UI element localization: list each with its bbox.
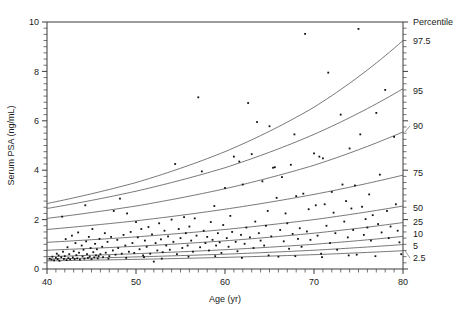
data-point bbox=[395, 203, 397, 205]
data-point bbox=[321, 256, 323, 258]
data-point bbox=[268, 255, 270, 257]
data-point bbox=[340, 114, 342, 116]
data-point bbox=[158, 222, 160, 224]
data-point bbox=[82, 256, 84, 258]
data-point bbox=[100, 253, 102, 255]
data-point bbox=[253, 247, 255, 249]
data-point bbox=[117, 247, 119, 249]
data-point bbox=[197, 96, 199, 98]
data-point bbox=[67, 246, 69, 248]
data-point bbox=[247, 102, 249, 104]
data-point bbox=[358, 28, 360, 30]
data-point bbox=[130, 231, 132, 233]
data-point bbox=[165, 245, 167, 247]
data-point bbox=[121, 253, 123, 255]
data-point bbox=[149, 253, 151, 255]
data-point bbox=[174, 163, 176, 165]
x-tick-label: 60 bbox=[220, 277, 230, 287]
data-point bbox=[98, 255, 100, 257]
data-point bbox=[205, 242, 207, 244]
percentile-label-97.5: 97.5 bbox=[413, 36, 431, 46]
data-point bbox=[75, 242, 77, 244]
data-point bbox=[190, 240, 192, 242]
data-point bbox=[62, 251, 64, 253]
data-point bbox=[254, 221, 256, 223]
data-point bbox=[123, 234, 125, 236]
data-point bbox=[91, 228, 93, 230]
data-point bbox=[189, 226, 191, 228]
data-point bbox=[315, 204, 317, 206]
data-point bbox=[108, 255, 110, 257]
data-point bbox=[367, 227, 369, 229]
data-point bbox=[187, 245, 189, 247]
scatter-point-layer bbox=[49, 28, 402, 262]
data-point bbox=[270, 236, 272, 238]
data-point bbox=[348, 255, 350, 257]
y-tick-label: 10 bbox=[29, 17, 39, 27]
percentile-curve-5 bbox=[47, 245, 403, 260]
data-point bbox=[263, 245, 265, 247]
label-layer: 02468104050607080Age (yr)Serum PSA (ng/m… bbox=[6, 17, 453, 304]
data-point bbox=[256, 121, 258, 123]
data-point bbox=[379, 174, 381, 176]
data-point bbox=[331, 191, 333, 193]
data-point bbox=[140, 228, 142, 230]
data-point bbox=[244, 243, 246, 245]
data-point bbox=[160, 238, 162, 240]
data-point bbox=[320, 253, 322, 255]
data-point bbox=[171, 219, 173, 221]
data-point bbox=[356, 254, 358, 256]
data-point bbox=[73, 250, 75, 252]
data-point bbox=[89, 256, 91, 258]
data-point bbox=[388, 237, 390, 239]
chart-canvas: 02468104050607080Age (yr)Serum PSA (ng/m… bbox=[0, 0, 462, 319]
data-point bbox=[101, 246, 103, 248]
data-point bbox=[294, 255, 296, 257]
data-point bbox=[69, 258, 71, 260]
data-point bbox=[153, 261, 155, 263]
data-point bbox=[229, 215, 231, 217]
data-point bbox=[397, 230, 399, 232]
data-point bbox=[194, 217, 196, 219]
data-point bbox=[192, 251, 194, 253]
data-point bbox=[226, 237, 228, 239]
data-point bbox=[290, 164, 292, 166]
data-point bbox=[110, 236, 112, 238]
data-point bbox=[350, 208, 352, 210]
data-point bbox=[283, 240, 285, 242]
data-point bbox=[81, 245, 83, 247]
data-point bbox=[137, 236, 139, 238]
percentile-label-95: 95 bbox=[413, 86, 423, 96]
data-point bbox=[49, 258, 51, 260]
data-point bbox=[148, 226, 150, 228]
data-point bbox=[267, 210, 269, 212]
data-point bbox=[329, 242, 331, 244]
data-point bbox=[95, 255, 97, 257]
x-tick-label: 50 bbox=[131, 277, 141, 287]
data-point bbox=[384, 89, 386, 91]
percentile-label-75: 75 bbox=[413, 168, 423, 178]
psa-percentile-chart: 02468104050607080Age (yr)Serum PSA (ng/m… bbox=[0, 0, 462, 319]
data-point bbox=[304, 33, 306, 35]
data-point bbox=[213, 205, 215, 207]
data-point bbox=[143, 256, 145, 258]
data-point bbox=[286, 222, 288, 224]
data-point bbox=[215, 245, 217, 247]
percentile-label-90: 90 bbox=[413, 121, 423, 131]
data-point bbox=[294, 133, 296, 135]
data-point bbox=[172, 241, 174, 243]
data-point bbox=[88, 236, 90, 238]
percentile-label-10: 10 bbox=[413, 229, 423, 239]
data-point bbox=[292, 233, 294, 235]
data-point bbox=[221, 252, 223, 254]
data-point bbox=[295, 195, 297, 197]
data-point bbox=[233, 156, 235, 158]
data-point bbox=[219, 241, 221, 243]
data-point bbox=[169, 249, 171, 251]
data-point bbox=[151, 234, 153, 236]
data-point bbox=[180, 237, 182, 239]
data-point bbox=[327, 72, 329, 74]
data-point bbox=[258, 232, 260, 234]
data-point bbox=[288, 248, 290, 250]
data-point bbox=[105, 252, 107, 254]
